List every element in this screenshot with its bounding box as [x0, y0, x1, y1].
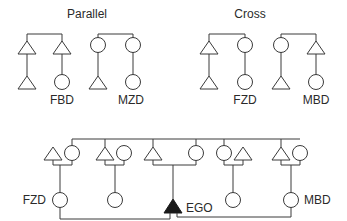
female-circle-icon — [117, 146, 132, 161]
cross-group-right: MBD — [272, 34, 330, 107]
marriage-connector — [153, 160, 196, 165]
male-triangle-icon — [18, 41, 36, 54]
male-triangle-icon — [144, 147, 162, 160]
kinship-diagram: Parallel FBD MZD Cross — [0, 0, 347, 221]
female-circle-icon — [55, 75, 70, 90]
marriage-connector — [224, 160, 243, 165]
cross-title: Cross — [234, 7, 265, 21]
label-fbd: FBD — [50, 93, 74, 107]
marriage-connector — [281, 160, 300, 165]
female-circle-icon — [189, 146, 204, 161]
female-circle-icon — [126, 75, 141, 90]
marriage-connector — [105, 160, 124, 165]
label-mzd: MZD — [118, 93, 144, 107]
parallel-group-brothers: FBD — [18, 34, 74, 107]
label-fzd: FZD — [23, 193, 47, 207]
male-triangle-icon — [234, 147, 252, 160]
male-triangle-icon — [200, 76, 218, 89]
cross-group-left: FZD — [200, 34, 257, 107]
label-ego: EGO — [186, 201, 213, 215]
female-circle-icon — [293, 146, 308, 161]
cross-panel: Cross FZD MBD — [200, 7, 330, 107]
parallel-group-sisters: MZD — [89, 34, 144, 107]
male-triangle-icon — [53, 41, 71, 54]
female-circle-icon — [65, 146, 80, 161]
ego-triangle-icon — [164, 199, 182, 213]
female-circle-icon — [126, 38, 141, 53]
female-circle-icon — [108, 193, 123, 208]
label-mbd: MBD — [303, 93, 330, 107]
parallel-panel: Parallel FBD MZD — [18, 7, 144, 107]
label-fzd: FZD — [233, 93, 257, 107]
female-circle-icon — [217, 146, 232, 161]
female-circle-icon — [284, 193, 299, 208]
label-mbd: MBD — [304, 193, 331, 207]
female-circle-icon — [274, 38, 289, 53]
ego-fzd-link — [60, 208, 170, 220]
male-triangle-icon — [89, 76, 107, 89]
male-triangle-icon — [200, 41, 218, 54]
combined-diagram: FZD EGO MBD — [23, 139, 331, 219]
male-triangle-icon — [18, 76, 36, 89]
marriage-connector — [53, 160, 72, 165]
female-circle-icon — [238, 75, 253, 90]
male-triangle-icon — [307, 41, 325, 54]
parallel-title: Parallel — [67, 7, 107, 21]
female-circle-icon — [238, 38, 253, 53]
male-triangle-icon — [272, 147, 290, 160]
male-triangle-icon — [272, 76, 290, 89]
female-circle-icon — [309, 75, 324, 90]
male-triangle-icon — [96, 147, 114, 160]
female-circle-icon — [91, 38, 106, 53]
sibling-bar — [98, 34, 133, 38]
sibling-bar — [27, 34, 62, 42]
male-triangle-icon — [44, 147, 62, 160]
female-circle-icon — [226, 193, 241, 208]
female-circle-icon — [53, 193, 68, 208]
